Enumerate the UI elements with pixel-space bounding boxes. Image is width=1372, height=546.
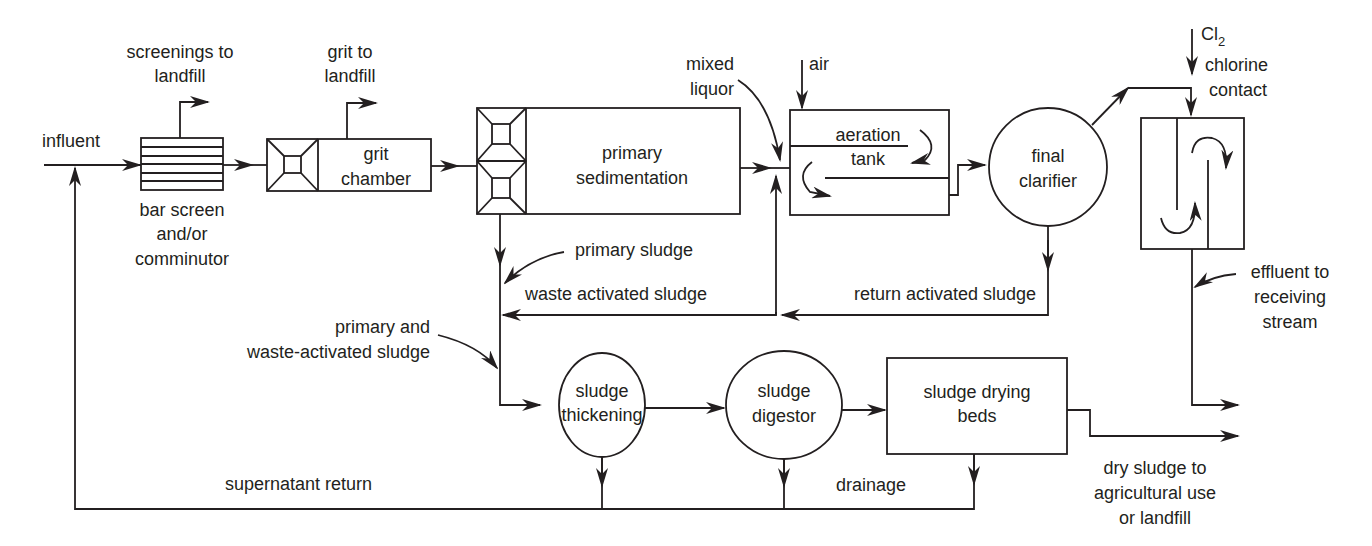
effluent-label-3: stream: [1262, 312, 1317, 332]
supernatant-return-label: supernatant return: [225, 474, 372, 494]
primary-and-was-label-2: waste-activated sludge: [246, 342, 430, 362]
sludge-drying-beds-label-2: beds: [957, 406, 996, 426]
sludge-drying-beds-label-1: sludge drying: [923, 382, 1030, 402]
bar-screen-label-2: and/or: [156, 224, 207, 244]
waste-activated-sludge-line: [503, 312, 776, 315]
sludge-thickening-label-1: sludge: [575, 381, 628, 401]
bar-screen-label-3: comminutor: [135, 249, 229, 269]
process-flow-diagram: influent bar screen and/or comminutor sc…: [0, 0, 1372, 546]
sludge-thickening-label-2: thickening: [561, 405, 642, 425]
cl2-label: Cl2: [1201, 24, 1225, 49]
primary-sludge-label: primary sludge: [575, 240, 693, 260]
mixed-liquor-label-2: liquor: [690, 79, 734, 99]
aeration-tank-label-1: aeration: [835, 125, 900, 145]
grit-chamber-label-2: chamber: [341, 169, 411, 189]
effluent-label-2: receiving: [1254, 287, 1326, 307]
air-label: air: [809, 54, 829, 74]
final-clarifier-label-1: final: [1031, 146, 1064, 166]
return-activated-sludge-label: return activated sludge: [854, 284, 1036, 304]
grit-arrow: [347, 103, 376, 139]
grit-chamber-label-1: grit: [363, 144, 388, 164]
mixed-liquor-label-1: mixed: [686, 54, 734, 74]
drainage-label: drainage: [836, 475, 906, 495]
primary-sedimentation-label-1: primary: [602, 143, 662, 163]
mixed-liquor-pointer: [738, 80, 780, 160]
bar-screen-label-1: bar screen: [139, 200, 224, 220]
influent-label: influent: [42, 131, 100, 151]
bar-screen: [141, 138, 223, 190]
dry-sludge-label-2: agricultural use: [1094, 483, 1216, 503]
chlorine-contact-label-2: contact: [1209, 80, 1267, 100]
sludge-digestor-label-1: sludge: [757, 381, 810, 401]
sludge-digestor-label-2: digestor: [752, 406, 816, 426]
dry-sludge-label-3: or landfill: [1119, 508, 1191, 528]
final-clarifier-label-2: clarifier: [1019, 171, 1077, 191]
screenings-label-1: screenings to: [126, 42, 233, 62]
primary-sedimentation-label-2: sedimentation: [576, 168, 688, 188]
grit-label-2: landfill: [324, 66, 375, 86]
final-clarifier: [989, 108, 1107, 226]
aeration-tank-label-2: tank: [851, 149, 886, 169]
sludge-digestor: [726, 351, 842, 459]
primary-and-was-label-1: primary and: [335, 317, 430, 337]
screenings-label-2: landfill: [154, 66, 205, 86]
screenings-arrow: [180, 102, 208, 138]
effluent-label-1: effluent to: [1251, 262, 1330, 282]
chlorine-contact-tank: [1141, 118, 1244, 249]
effluent-line: [1192, 249, 1238, 405]
waste-activated-sludge-label: waste activated sludge: [524, 284, 707, 304]
grit-label-1: grit to: [327, 42, 372, 62]
dry-sludge-line: [1067, 410, 1238, 436]
dry-sludge-label-1: dry sludge to: [1103, 458, 1206, 478]
chlorine-contact-label-1: chlorine: [1205, 55, 1268, 75]
